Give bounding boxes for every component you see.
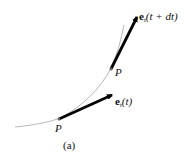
tangent-vector-diagram: P P et(t) et(t + dt) (a)	[0, 0, 194, 157]
figure-caption: (a)	[63, 140, 75, 151]
tangent-vector-t-plus-dt	[111, 17, 137, 69]
point-p-upper-dot	[110, 68, 113, 71]
vector-argument: (t)	[122, 95, 132, 107]
vector-label-et-dt: et(t + dt)	[139, 11, 178, 24]
point-p-upper: P	[115, 67, 122, 78]
vector-label-et: et(t)	[115, 96, 132, 109]
tangent-vector-t	[59, 95, 112, 119]
curve	[15, 25, 124, 127]
point-p-lower-dot	[58, 118, 61, 121]
point-p-lower: P	[55, 123, 62, 134]
vector-argument: (t + dt)	[146, 10, 178, 22]
